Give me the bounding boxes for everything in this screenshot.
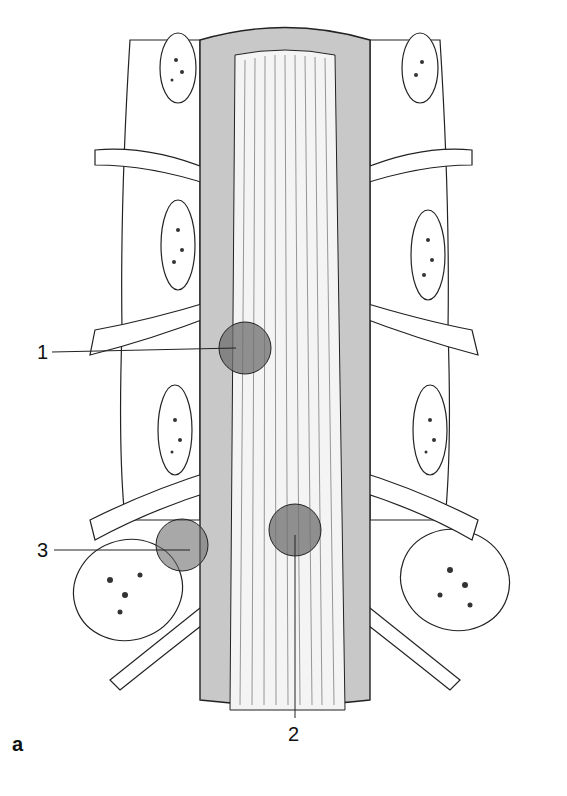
label-3: 3 [37,540,48,560]
pedicle-left-2 [161,200,195,290]
lesion-3 [156,519,208,571]
anatomy-illustration [0,0,567,796]
pedicle-right-1 [402,33,438,103]
label-1: 1 [37,342,48,362]
label-2: 2 [288,724,299,744]
panel-label: a [12,734,23,754]
pedicle-left-3 [158,385,192,475]
pedicle-right-3 [413,385,447,475]
pedicle-left-1 [160,33,196,103]
pedicle-right-2 [411,210,445,300]
pedicle-right-4 [386,514,524,646]
